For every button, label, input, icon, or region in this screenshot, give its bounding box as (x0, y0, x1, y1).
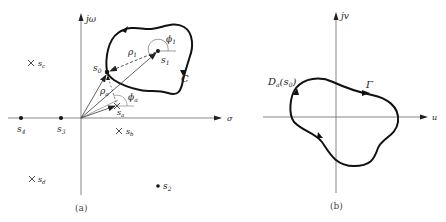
sb-label: sb (126, 127, 134, 137)
sigma-axis-arrow-icon (214, 116, 222, 121)
jv-axis-label: jv (339, 11, 349, 21)
rho1-label: ρ1 (127, 47, 137, 58)
jw-axis-label: jω (84, 14, 97, 24)
s0-label: s0 (93, 63, 102, 74)
panel-a: jω σ C s1 ϕ1 s0 ρ1 sa ρa (8, 13, 233, 213)
point-s3 (59, 116, 63, 120)
vector-origin-sa (81, 106, 115, 118)
point-s2 (156, 184, 160, 188)
s1-label: s1 (161, 55, 169, 66)
u-axis-label: u (432, 113, 437, 122)
rhoa-label: ρa (99, 86, 109, 97)
point-sb (116, 128, 122, 134)
caption-b: (b) (330, 201, 343, 211)
phi1-label: ϕ1 (166, 34, 176, 45)
point-sd (29, 176, 35, 182)
caption-a: (a) (75, 203, 87, 213)
jw-axis-arrow-icon (79, 13, 84, 21)
image-point-label: Da(s0) (267, 76, 296, 88)
sigma-axis-label: σ (227, 114, 233, 123)
s3-label: s3 (57, 124, 66, 135)
point-s0 (105, 70, 109, 74)
contour-c-label: C (181, 73, 189, 84)
s4-label: s4 (17, 124, 26, 135)
jv-axis-arrow-icon (334, 12, 339, 20)
sd-label: sd (38, 175, 46, 185)
point-sc (28, 60, 34, 66)
s2-label: s2 (163, 181, 172, 192)
sc-label: sc (38, 59, 45, 69)
point-s4 (19, 116, 23, 120)
contour-gamma (290, 79, 398, 166)
contour-arrow-icon (317, 132, 323, 138)
sa-label: sa (117, 108, 124, 118)
phia-label: ϕa (128, 92, 138, 103)
u-axis-arrow-icon (420, 115, 428, 120)
contour-gamma-label: Γ (365, 79, 374, 90)
diagram-canvas: jω σ C s1 ϕ1 s0 ρ1 sa ρa (0, 0, 446, 222)
panel-b: u jv Γ Da(s0) (b) (263, 11, 437, 211)
vector-origin-s0 (81, 75, 106, 118)
